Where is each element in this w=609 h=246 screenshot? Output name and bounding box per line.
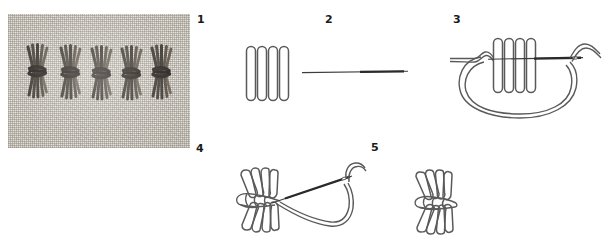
needle-step4	[272, 176, 352, 203]
satin-bars-group-step3	[494, 39, 536, 93]
finished-sheaf-bars-group	[416, 170, 453, 234]
satin-bar	[258, 47, 267, 101]
stitch-tutorial-figure: 1 2	[0, 0, 609, 246]
thread-tail-step4	[346, 163, 366, 182]
satin-bar	[280, 47, 289, 101]
step-label-4: 4	[196, 143, 204, 154]
sheaf-stitch-photograph	[8, 14, 190, 148]
satin-bar	[494, 39, 503, 93]
satin-bar	[247, 47, 256, 101]
satin-bar	[269, 47, 278, 101]
step-label-3: 3	[453, 14, 461, 25]
satin-bars-group-step2	[247, 47, 289, 101]
figure-step5-diagram	[400, 162, 480, 242]
needle-body	[285, 177, 350, 199]
satin-bar	[527, 39, 536, 93]
figure-step4-diagram	[225, 158, 390, 242]
step-label-2: 2	[325, 14, 333, 25]
figure-step3-diagram	[448, 24, 609, 130]
needle-step2	[300, 55, 420, 89]
step-label-5: 5	[371, 142, 379, 153]
photo-vignette	[8, 14, 190, 148]
needle-body	[360, 71, 404, 72]
satin-bar	[516, 39, 525, 93]
cinched-bars-group-step4	[241, 168, 279, 232]
satin-bar	[505, 39, 514, 93]
step-label-1: 1	[197, 14, 205, 25]
